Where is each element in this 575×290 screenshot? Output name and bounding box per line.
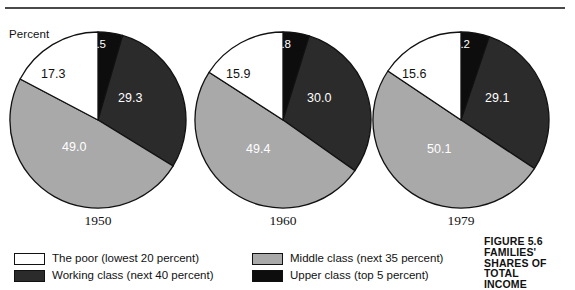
figure-income-shares: Percent 4.529.349.017.319504.830.049.415… — [0, 0, 575, 290]
pie-chart-1979: 5.229.150.115.61979 — [372, 31, 550, 231]
legend-label-upper: Upper class (top 5 percent) — [290, 269, 429, 282]
pie-chart-1960: 4.830.049.415.91960 — [194, 31, 372, 231]
pie-chart-1950: 4.529.349.017.31950 — [9, 31, 187, 231]
legend-swatch-middle — [252, 253, 283, 265]
top-rule-divider — [5, 7, 565, 9]
pie-year-label-1960: 1960 — [194, 213, 372, 229]
pie-graphic-1950 — [9, 31, 187, 209]
chart-legend: The poor (lowest 20 percent)Working clas… — [14, 252, 469, 286]
legend-item-poor[interactable]: The poor (lowest 20 percent) — [14, 252, 199, 265]
legend-swatch-poor — [14, 253, 45, 265]
legend-item-upper[interactable]: Upper class (top 5 percent) — [252, 269, 429, 282]
caption-line-1: FAMILIES' — [484, 247, 574, 258]
legend-item-middle[interactable]: Middle class (next 35 percent) — [252, 252, 443, 265]
legend-label-middle: Middle class (next 35 percent) — [290, 252, 443, 265]
legend-label-working: Working class (next 40 percent) — [52, 269, 214, 282]
pie-graphic-1960 — [194, 31, 372, 209]
legend-swatch-working — [14, 270, 45, 282]
legend-swatch-upper — [252, 270, 283, 282]
legend-item-working[interactable]: Working class (next 40 percent) — [14, 269, 214, 282]
legend-label-poor: The poor (lowest 20 percent) — [52, 252, 199, 265]
pie-year-label-1950: 1950 — [9, 213, 187, 229]
pie-graphic-1979 — [372, 31, 550, 209]
caption-line-4: INCOME — [484, 279, 574, 290]
pie-year-label-1979: 1979 — [372, 213, 550, 229]
figure-caption: FIGURE 5.6FAMILIES'SHARES OFTOTALINCOME — [484, 236, 574, 290]
